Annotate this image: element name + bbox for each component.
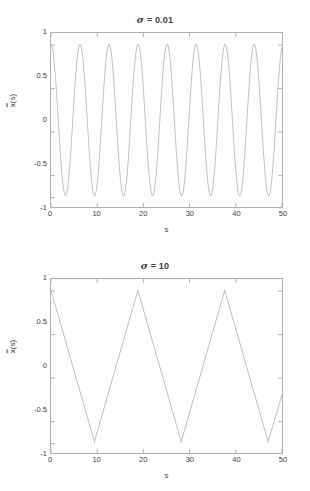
- x-tick-labels-1: 0 10 20 30 40 50: [50, 210, 283, 222]
- plot-title-2: σ = 10: [0, 260, 310, 271]
- plot-title-value-1: = 0.01: [147, 15, 173, 25]
- y-axis-label-suffix-1: (s): [8, 94, 17, 103]
- plot-title-1: σ = 0.01: [0, 14, 310, 25]
- data-series-triangle: [51, 290, 282, 441]
- x-tick-label: 10: [92, 210, 100, 218]
- plot-svg-2: [51, 279, 282, 453]
- y-tick-label: 0: [21, 362, 47, 370]
- x-tick-label: 0: [48, 456, 52, 464]
- y-tick-label: -1: [21, 204, 47, 212]
- y-tick-label: 1: [21, 274, 47, 282]
- x-tick-label: 20: [139, 456, 147, 464]
- y-axis-label-suffix-2: (s): [8, 340, 17, 349]
- x-tick-label: 40: [232, 210, 240, 218]
- y-tick-label: 0.5: [21, 72, 47, 80]
- sigma-symbol-2: σ: [141, 260, 148, 271]
- subplot-sigma-10: σ = 10 x(s) 1 0.5 0 -0.5 -1: [0, 246, 310, 491]
- x-tick-label: 50: [279, 210, 287, 218]
- plot-title-value-2: = 10: [151, 261, 170, 271]
- sigma-symbol-1: σ: [137, 14, 144, 25]
- x-tick-label: 30: [186, 456, 194, 464]
- x-axis-label-2: s: [50, 471, 283, 480]
- y-tick-labels-2: 1 0.5 0 -0.5 -1: [18, 278, 47, 454]
- figure-canvas: σ = 0.01 x(s) 1 0.5 0 -0.5 -1: [0, 0, 310, 491]
- y-tick-marks-2: [51, 291, 282, 443]
- y-tick-label: -0.5: [21, 406, 47, 414]
- x-tick-label: 40: [232, 456, 240, 464]
- plot-svg-1: [51, 33, 282, 207]
- plot-area-2: [50, 278, 283, 454]
- y-axis-label-base-2: x: [8, 349, 17, 353]
- y-axis-label-1: x(s): [8, 71, 17, 131]
- plot-area-1: [50, 32, 283, 208]
- y-tick-label: 0: [21, 116, 47, 124]
- y-tick-labels-1: 1 0.5 0 -0.5 -1: [18, 32, 47, 208]
- data-series-cosine: [51, 44, 282, 195]
- x-tick-label: 20: [139, 210, 147, 218]
- x-tick-label: 50: [279, 456, 287, 464]
- y-tick-label: 0.5: [21, 318, 47, 326]
- y-tick-label: 1: [21, 28, 47, 36]
- x-tick-label: 0: [48, 210, 52, 218]
- x-tick-label: 10: [92, 456, 100, 464]
- y-tick-label: -0.5: [21, 160, 47, 168]
- x-tick-marks-2: [51, 279, 282, 453]
- y-axis-label-2: x(s): [8, 317, 17, 377]
- y-axis-label-base-1: x: [8, 103, 17, 107]
- x-tick-label: 30: [186, 210, 194, 218]
- y-tick-label: -1: [21, 450, 47, 458]
- x-tick-labels-2: 0 10 20 30 40 50: [50, 456, 283, 468]
- x-axis-label-1: s: [50, 225, 283, 234]
- subplot-sigma-0-01: σ = 0.01 x(s) 1 0.5 0 -0.5 -1: [0, 0, 310, 245]
